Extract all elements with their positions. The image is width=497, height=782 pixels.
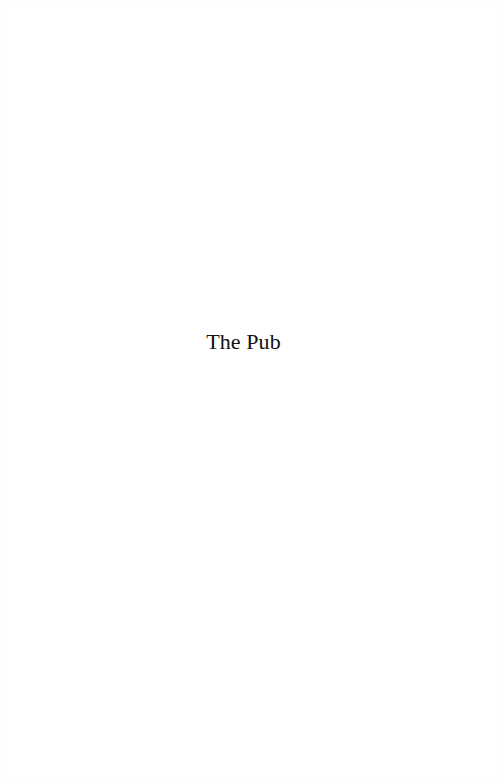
document-page: The Pub [0, 0, 497, 782]
page-title: The Pub [0, 328, 487, 356]
